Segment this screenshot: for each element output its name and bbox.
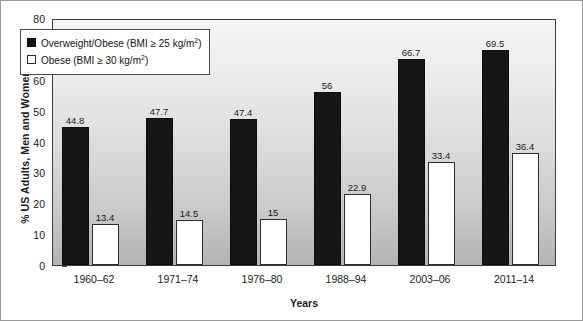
legend-item[interactable]: Overweight/Obese (BMI ≥ 25 kg/m2)	[27, 34, 202, 51]
bar-value-label: 36.4	[516, 141, 535, 152]
bar-value-label: 47.7	[150, 106, 169, 117]
chart-figure: % US Adults, Men and Women 0102030405060…	[0, 0, 583, 321]
chart-legend: Overweight/Obese (BMI ≥ 25 kg/m2)Obese (…	[20, 29, 210, 75]
bar-value-label: 56	[322, 80, 333, 91]
legend-label: Obese (BMI ≥ 30 kg/m2)	[41, 51, 148, 68]
x-axis-title: Years	[52, 297, 556, 309]
legend-swatch-dark	[27, 38, 36, 47]
x-axis-tick-labels: 1960–621971–741976–801988–942003–062011–…	[52, 273, 556, 289]
bar-value-label: 14.5	[180, 208, 199, 219]
legend-label-suffix: )	[198, 38, 201, 49]
x-tick-label: 2011–14	[494, 273, 534, 285]
bar[interactable]: 14.5	[176, 220, 203, 265]
bar[interactable]: 36.4	[512, 153, 539, 265]
bar[interactable]: 13.4	[92, 224, 119, 265]
x-tick-label: 1988–94	[326, 273, 367, 285]
bar-group: 5622.9	[305, 20, 389, 265]
bar-value-label: 13.4	[96, 212, 115, 223]
legend-item[interactable]: Obese (BMI ≥ 30 kg/m2)	[27, 51, 202, 68]
x-tick-label: 1971–74	[158, 273, 199, 285]
bar[interactable]: 22.9	[344, 194, 371, 265]
legend-swatch-light	[27, 55, 36, 64]
legend-label-main: Obese (BMI ≥ 30 kg/m	[41, 56, 141, 67]
bar[interactable]: 33.4	[428, 162, 455, 265]
x-tick-label: 2003–06	[410, 273, 451, 285]
y-tick-label: 40	[15, 137, 45, 149]
y-tick-label: 0	[15, 260, 45, 272]
bar-value-label: 69.5	[486, 38, 505, 49]
legend-label: Overweight/Obese (BMI ≥ 25 kg/m2)	[41, 34, 202, 51]
bar[interactable]: 47.4	[230, 119, 257, 265]
bar-value-label: 44.8	[66, 115, 85, 126]
y-tick-label: 20	[15, 198, 45, 210]
bar-value-label: 47.4	[234, 107, 253, 118]
legend-label-suffix: )	[145, 56, 148, 67]
y-tick-label: 60	[15, 75, 45, 87]
bar-group: 66.733.4	[389, 20, 473, 265]
x-tick-label: 1960–62	[74, 273, 115, 285]
bar[interactable]: 15	[260, 219, 287, 265]
bar[interactable]: 66.7	[398, 59, 425, 265]
bar-value-label: 66.7	[402, 47, 421, 58]
bar-group: 47.415	[221, 20, 305, 265]
bar-value-label: 15	[268, 207, 279, 218]
y-tick-label: 80	[15, 13, 45, 25]
x-tick-label: 1976–80	[242, 273, 283, 285]
bar[interactable]: 56	[314, 92, 341, 265]
bar[interactable]: 47.7	[146, 118, 173, 265]
y-tick-label: 30	[15, 167, 45, 179]
y-tick-mark	[62, 266, 67, 267]
bar-value-label: 33.4	[432, 150, 451, 161]
bar[interactable]: 44.8	[62, 127, 89, 265]
legend-label-main: Overweight/Obese (BMI ≥ 25 kg/m	[41, 38, 194, 49]
bar-group: 69.536.4	[473, 20, 557, 265]
bar-value-label: 22.9	[348, 182, 367, 193]
bar[interactable]: 69.5	[482, 50, 509, 265]
y-tick-label: 50	[15, 106, 45, 118]
y-tick-label: 10	[15, 229, 45, 241]
